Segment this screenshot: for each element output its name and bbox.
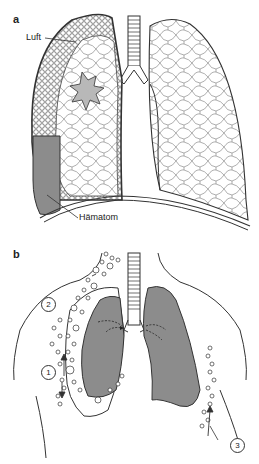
trachea-b xyxy=(124,253,144,332)
lung-right-b xyxy=(144,287,201,407)
normal-lung-right xyxy=(149,19,248,220)
hematoma-label: Hämatom xyxy=(79,212,118,222)
panel-a: a xyxy=(0,0,259,240)
trachea xyxy=(120,16,148,84)
air-label: Luft xyxy=(26,32,41,42)
marker-3: 3 xyxy=(230,438,245,453)
marker-2: 2 xyxy=(41,297,56,312)
collapsed-lung-left xyxy=(32,14,122,214)
marker-1: 1 xyxy=(41,365,56,380)
panel-b: b xyxy=(0,240,259,464)
hematoma-region xyxy=(33,136,60,215)
subcutaneous-emphysema-diagram xyxy=(0,240,259,464)
